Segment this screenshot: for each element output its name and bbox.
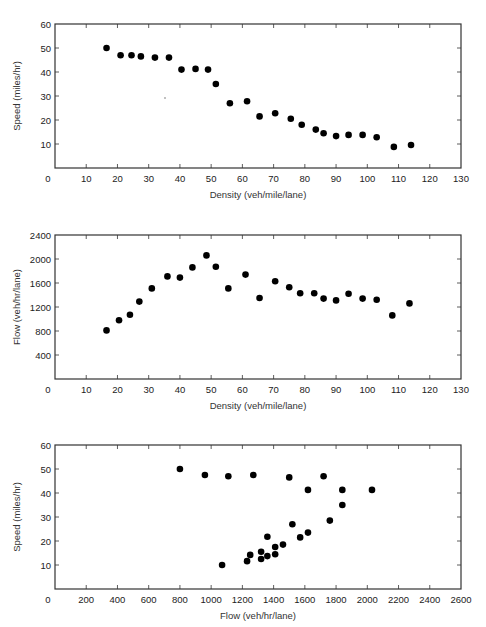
data-point bbox=[213, 264, 220, 271]
x-tick-label: 1200 bbox=[232, 594, 253, 605]
data-point bbox=[127, 312, 134, 319]
x-tick-label: 20 bbox=[112, 384, 123, 395]
data-point bbox=[264, 533, 271, 540]
x-tick-label: 10 bbox=[81, 384, 92, 395]
x-tick-label: 600 bbox=[141, 594, 157, 605]
x-tick-label: 0 bbox=[45, 173, 50, 184]
data-point bbox=[178, 66, 185, 73]
x-tick-label: 60 bbox=[237, 384, 248, 395]
data-point bbox=[339, 487, 346, 494]
charts-canvas: 0102030405060708090100110120130102030405… bbox=[0, 0, 486, 627]
x-tick-label: 120 bbox=[422, 384, 438, 395]
data-point bbox=[305, 487, 312, 494]
x-tick-label: 400 bbox=[110, 594, 126, 605]
data-point bbox=[305, 529, 312, 536]
x-tick-label: 2400 bbox=[419, 594, 440, 605]
data-point bbox=[320, 295, 327, 302]
y-axis-title: Speed (miles/hr) bbox=[11, 482, 22, 552]
data-point bbox=[297, 290, 304, 297]
x-tick-label: 2000 bbox=[357, 594, 378, 605]
x-tick-label: 110 bbox=[391, 173, 406, 184]
x-tick-label: 100 bbox=[359, 173, 375, 184]
data-point bbox=[345, 291, 352, 298]
data-point bbox=[213, 81, 220, 88]
data-point bbox=[103, 327, 110, 334]
x-tick-label: 0 bbox=[45, 384, 50, 395]
data-point bbox=[256, 113, 263, 120]
y-tick-label: 2000 bbox=[30, 254, 51, 265]
data-point bbox=[166, 54, 173, 61]
data-point bbox=[203, 252, 210, 259]
data-point bbox=[244, 558, 251, 565]
x-tick-label: 1800 bbox=[326, 594, 347, 605]
data-point bbox=[227, 100, 234, 107]
x-tick-label: 50 bbox=[206, 384, 217, 395]
data-point bbox=[103, 45, 110, 52]
data-point bbox=[136, 298, 143, 305]
data-point bbox=[286, 474, 293, 481]
data-point bbox=[202, 472, 209, 479]
data-point bbox=[369, 487, 376, 494]
plot-frame bbox=[55, 445, 461, 589]
x-tick-label: 40 bbox=[175, 173, 186, 184]
data-point bbox=[177, 274, 184, 281]
data-point bbox=[333, 297, 340, 304]
x-tick-label: 0 bbox=[45, 594, 50, 605]
data-point bbox=[250, 472, 257, 479]
x-tick-label: 110 bbox=[391, 384, 406, 395]
data-point bbox=[359, 132, 366, 139]
data-point bbox=[264, 553, 271, 560]
data-point bbox=[219, 562, 226, 569]
y-axis-title: Flow (veh/hr/lane) bbox=[11, 269, 22, 345]
data-point bbox=[289, 521, 296, 528]
x-tick-label: 40 bbox=[175, 384, 186, 395]
data-point bbox=[116, 317, 123, 324]
data-point bbox=[149, 285, 156, 292]
x-tick-label: 130 bbox=[453, 173, 469, 184]
data-point bbox=[280, 541, 287, 548]
x-tick-label: 30 bbox=[143, 384, 154, 395]
x-tick-label: 80 bbox=[300, 384, 311, 395]
x-tick-label: 90 bbox=[331, 384, 342, 395]
x-tick-label: 100 bbox=[359, 384, 375, 395]
data-point bbox=[287, 116, 294, 123]
data-point bbox=[389, 312, 396, 319]
x-tick-label: 80 bbox=[300, 173, 311, 184]
data-point bbox=[256, 295, 263, 302]
data-point bbox=[320, 473, 327, 480]
flow-density-chart: 0102030405060708090100110120130400800120… bbox=[11, 230, 469, 412]
x-tick-label: 90 bbox=[331, 173, 342, 184]
plot-frame bbox=[55, 24, 461, 168]
data-point bbox=[189, 264, 196, 271]
data-point bbox=[164, 273, 171, 280]
y-tick-label: 800 bbox=[35, 326, 51, 337]
data-point bbox=[225, 285, 232, 292]
x-axis-title: Flow (veh/hr/lane) bbox=[220, 610, 296, 621]
y-axis-title: Speed (miles/hr) bbox=[11, 61, 22, 131]
data-point bbox=[242, 271, 249, 278]
data-point bbox=[345, 132, 352, 139]
x-tick-label: 2600 bbox=[450, 594, 471, 605]
x-tick-label: 1600 bbox=[294, 594, 315, 605]
x-tick-label: 10 bbox=[81, 173, 92, 184]
y-tick-label: 40 bbox=[40, 67, 51, 78]
data-point bbox=[138, 53, 145, 60]
data-point bbox=[247, 552, 254, 559]
data-point bbox=[177, 466, 184, 473]
y-tick-label: 40 bbox=[40, 488, 51, 499]
y-tick-label: 2400 bbox=[30, 230, 51, 241]
x-axis-title: Density (veh/mile/lane) bbox=[210, 189, 307, 200]
plot-frame bbox=[55, 235, 461, 379]
x-tick-label: 60 bbox=[237, 173, 248, 184]
x-tick-label: 70 bbox=[268, 384, 279, 395]
data-point bbox=[258, 549, 265, 556]
data-point bbox=[406, 300, 413, 307]
y-tick-label: 20 bbox=[40, 536, 51, 547]
data-point bbox=[373, 297, 380, 304]
x-tick-label: 1000 bbox=[201, 594, 222, 605]
data-point bbox=[272, 544, 279, 551]
y-tick-label: 30 bbox=[40, 512, 51, 523]
y-tick-label: 60 bbox=[40, 440, 51, 451]
data-point bbox=[192, 66, 199, 73]
data-point bbox=[117, 52, 124, 59]
